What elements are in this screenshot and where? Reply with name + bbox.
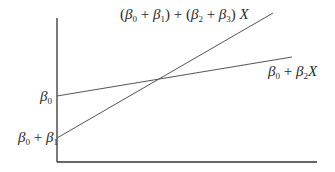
subscript: 0 (47, 96, 52, 106)
x-variable: X (308, 63, 317, 79)
shallow-line-label: β0 + β2X (268, 64, 317, 81)
y-label-beta0-plus-beta1: β0 + β1 (18, 130, 58, 147)
plus-sign: + (280, 63, 296, 79)
subscript: 1 (53, 137, 58, 147)
steep-line (57, 13, 273, 138)
plus-sign: + (137, 6, 153, 22)
plus-sign: + (30, 129, 46, 145)
x-variable: X (236, 6, 249, 22)
y-label-beta0: β0 (40, 89, 52, 106)
shallow-line (57, 57, 292, 96)
plus-sign: + (170, 6, 186, 22)
steep-line-label: (β0 + β1) + (β2 + β3) X (120, 7, 249, 24)
plus-sign: + (203, 6, 219, 22)
